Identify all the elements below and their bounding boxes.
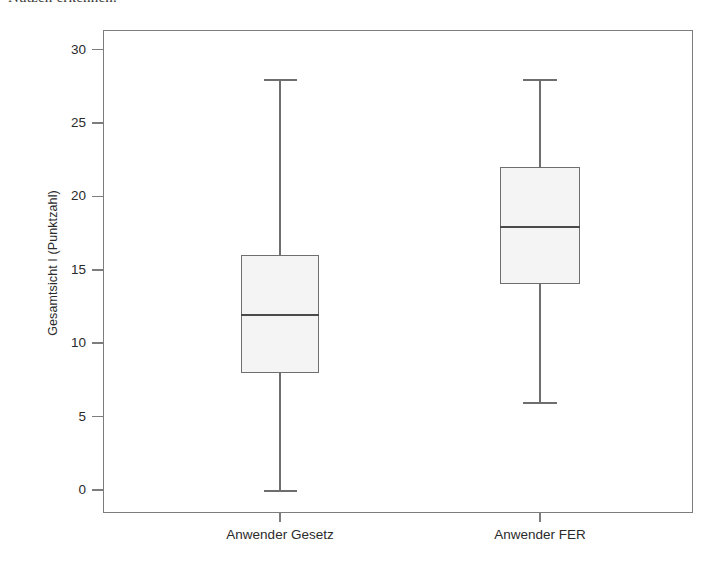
lower-whisker-cap bbox=[523, 402, 557, 404]
median-line bbox=[241, 314, 319, 316]
y-axis-tick-label: 30 bbox=[71, 41, 86, 59]
x-axis-tick-label: Anwender Gesetz bbox=[150, 527, 410, 542]
lower-whisker-cap bbox=[264, 490, 297, 492]
y-axis-tick-label: 20 bbox=[71, 187, 86, 205]
y-axis-tick-mark bbox=[92, 489, 103, 491]
boxplot-figure: Gesamtsicht I (Punktzahl) 051015202530 A… bbox=[0, 0, 718, 566]
plot-frame bbox=[103, 30, 693, 513]
y-axis-tick-label: 5 bbox=[78, 408, 86, 426]
y-axis-title: Gesamtsicht I (Punktzahl) bbox=[46, 53, 60, 473]
y-axis-tick-mark bbox=[92, 269, 103, 271]
upper-whisker-line bbox=[539, 79, 541, 167]
upper-whisker-line bbox=[279, 79, 281, 255]
lower-whisker-line bbox=[539, 284, 541, 401]
y-axis-tick-mark bbox=[92, 342, 103, 344]
upper-whisker-cap bbox=[264, 79, 297, 81]
y-axis-tick-mark bbox=[92, 49, 103, 51]
y-axis-tick-mark bbox=[92, 122, 103, 124]
x-axis-tick-mark bbox=[539, 513, 541, 522]
y-axis-tick-mark bbox=[92, 416, 103, 418]
x-axis-tick-label: Anwender FER bbox=[410, 527, 670, 542]
lower-whisker-line bbox=[279, 373, 281, 490]
x-axis-tick-mark bbox=[279, 513, 281, 522]
upper-whisker-cap bbox=[523, 79, 557, 81]
y-axis-tick-label: 10 bbox=[71, 334, 86, 352]
y-axis-tick-label: 15 bbox=[71, 261, 86, 279]
median-line bbox=[500, 226, 580, 228]
y-axis-tick-label: 0 bbox=[78, 481, 86, 499]
y-axis-tick-mark bbox=[92, 196, 103, 198]
y-axis-tick-label: 25 bbox=[71, 114, 86, 132]
